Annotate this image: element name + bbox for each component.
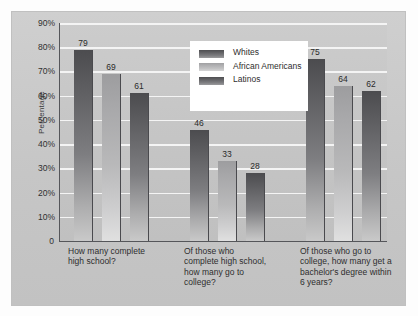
legend-item[interactable]: African Americans [199, 62, 308, 72]
bar-value-label: 28 [250, 161, 259, 171]
bar[interactable]: 64 [334, 86, 353, 241]
chart-panel: Percentage 90%80%70%60%50%40%30%20%10%0 … [12, 12, 405, 305]
bar[interactable]: 28 [246, 173, 265, 241]
bar-value-label: 61 [134, 81, 143, 91]
bar-value-label: 62 [366, 79, 375, 89]
bar[interactable]: 75 [306, 59, 325, 241]
chart-figure: Percentage 90%80%70%60%50%40%30%20%10%0 … [0, 0, 418, 316]
chart-legend: Whites African Americans Latinos [190, 41, 308, 111]
x-axis-category-label-2: Of those who go to college, how many get… [300, 246, 396, 287]
y-axis-tick-label: 0 [49, 236, 54, 246]
bar-value-label: 75 [310, 47, 319, 57]
bar[interactable]: 69 [102, 74, 121, 241]
legend-swatch-whites [199, 50, 224, 58]
bar[interactable]: 61 [130, 93, 149, 241]
y-axis-tick-label: 80% [38, 42, 55, 52]
bar-value-label: 64 [338, 74, 347, 84]
bar-value-label: 79 [78, 38, 87, 48]
bar[interactable]: 33 [218, 161, 237, 241]
bar-value-label: 69 [106, 62, 115, 72]
y-axis-tick-label: 20% [38, 188, 55, 198]
x-axis-category-label-1: Of those who complete high school, how m… [184, 246, 270, 287]
y-axis-tick-label: 30% [38, 163, 55, 173]
y-axis-tick-label: 50% [38, 115, 55, 125]
bar-value-label: 46 [194, 118, 203, 128]
bar[interactable]: 62 [362, 91, 381, 241]
y-axis-tick-label: 40% [38, 139, 55, 149]
legend-swatch-african-americans [199, 63, 224, 71]
y-axis-tick-label: 90% [38, 18, 55, 28]
x-axis-category-label-0: How many complete high school? [68, 246, 154, 267]
gridline [60, 23, 387, 25]
y-axis-tick-label: 60% [38, 91, 55, 101]
legend-swatch-latinos [199, 77, 224, 85]
bar[interactable]: 46 [190, 130, 209, 241]
legend-item[interactable]: Whites [199, 48, 308, 58]
y-axis-tick-label: 70% [38, 66, 55, 76]
y-axis-tick-label: 10% [38, 212, 55, 222]
legend-label-latinos: Latinos [233, 75, 260, 85]
legend-item[interactable]: Latinos [199, 75, 308, 85]
legend-label-whites: Whites [233, 48, 259, 58]
bar[interactable]: 79 [74, 50, 93, 241]
legend-label-african-americans: African Americans [233, 62, 302, 72]
bar-value-label: 33 [222, 149, 231, 159]
